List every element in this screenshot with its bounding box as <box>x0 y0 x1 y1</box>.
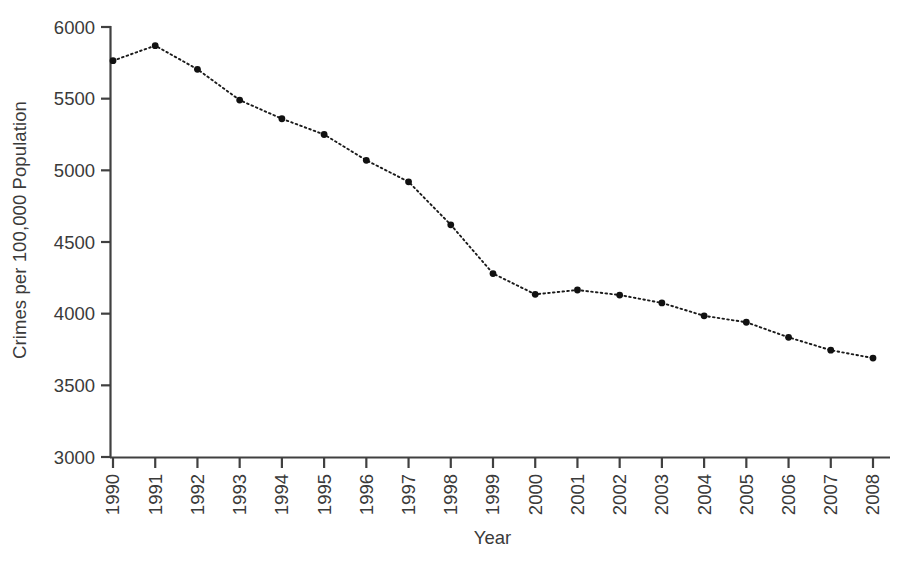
x-tick-label: 2003 <box>651 474 672 515</box>
data-series-line <box>113 46 873 358</box>
data-point-marker <box>363 157 370 164</box>
x-tick-label: 1990 <box>102 474 123 515</box>
x-tick-label: 1994 <box>271 474 292 515</box>
x-tick-label: 1993 <box>229 474 250 515</box>
data-point-marker <box>870 355 877 362</box>
y-tick-label: 3000 <box>54 447 95 468</box>
y-axis-ticks: 3000350040004500500055006000 <box>54 17 111 468</box>
data-point-marker <box>616 292 623 299</box>
x-tick-label: 2004 <box>694 474 715 515</box>
crime-rate-line-chart: Crimes per 100,000 Population Year 30003… <box>0 0 899 573</box>
data-point-markers <box>110 42 877 361</box>
data-point-marker <box>743 319 750 326</box>
x-tick-label: 1996 <box>356 474 377 515</box>
data-point-marker <box>785 334 792 341</box>
data-point-marker <box>278 115 285 122</box>
data-point-marker <box>447 221 454 228</box>
data-point-marker <box>532 291 539 298</box>
y-tick-label: 5500 <box>54 88 95 109</box>
data-point-marker <box>194 66 201 73</box>
x-tick-label: 2002 <box>609 474 630 515</box>
y-tick-label: 4500 <box>54 232 95 253</box>
y-tick-label: 3500 <box>54 375 95 396</box>
x-tick-label: 2001 <box>567 474 588 515</box>
data-point-marker <box>658 300 665 307</box>
data-point-marker <box>152 42 159 49</box>
x-tick-label: 2006 <box>778 474 799 515</box>
x-tick-label: 1999 <box>482 474 503 515</box>
x-tick-label: 1997 <box>398 474 419 515</box>
data-point-marker <box>110 57 117 64</box>
x-tick-label: 2007 <box>820 474 841 515</box>
data-point-marker <box>701 312 708 319</box>
x-tick-label: 1998 <box>440 474 461 515</box>
y-tick-label: 4000 <box>54 303 95 324</box>
data-point-marker <box>236 97 243 104</box>
data-point-marker <box>490 270 497 277</box>
y-tick-label: 6000 <box>54 17 95 38</box>
x-tick-label: 2008 <box>862 474 883 515</box>
x-axis-ticks: 1990199119921993199419951996199719981999… <box>102 458 883 515</box>
x-tick-label: 1995 <box>314 474 335 515</box>
data-point-marker <box>574 287 581 294</box>
x-tick-label: 2005 <box>736 474 757 515</box>
data-point-marker <box>827 347 834 354</box>
x-tick-label: 1991 <box>145 474 166 515</box>
data-point-marker <box>321 131 328 138</box>
y-tick-label: 5000 <box>54 160 95 181</box>
x-tick-label: 1992 <box>187 474 208 515</box>
data-point-marker <box>405 178 412 185</box>
x-tick-label: 2000 <box>525 474 546 515</box>
plot-area: 3000350040004500500055006000 19901991199… <box>0 0 899 573</box>
